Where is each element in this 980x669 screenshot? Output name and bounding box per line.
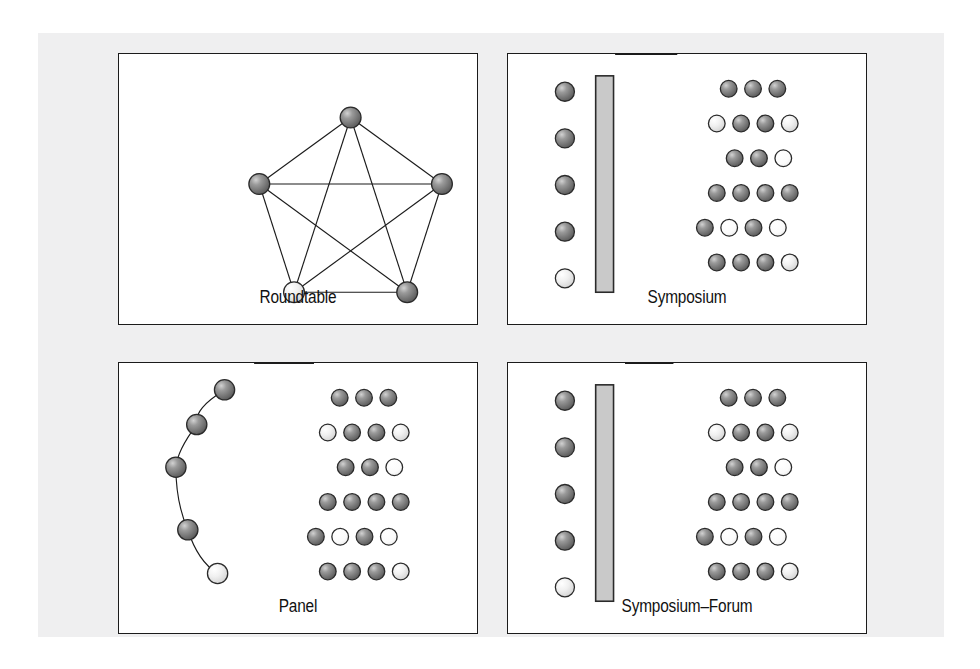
panel-audience-member xyxy=(380,389,397,406)
sphere-body xyxy=(757,254,774,271)
symposium-audience-member xyxy=(708,185,725,202)
symposium-audience-row xyxy=(726,150,791,167)
sphere-body xyxy=(726,459,743,476)
sphere-body xyxy=(726,150,743,167)
symposium-forum-audience-member xyxy=(733,424,750,441)
sphere-body xyxy=(769,389,786,406)
panel-symposium: Symposium xyxy=(507,53,867,325)
panel-audience-member xyxy=(319,563,336,580)
sphere-body xyxy=(187,414,207,434)
panel-audience-member xyxy=(368,494,385,511)
symposium-audience-member xyxy=(733,115,750,132)
symposium-forum-speaker xyxy=(555,531,574,550)
symposium-audience-row xyxy=(720,80,785,97)
symposium-audience-member xyxy=(697,219,714,236)
sphere-body xyxy=(555,391,574,410)
symposium-forum-audience-member xyxy=(721,528,738,545)
panel-audience-row xyxy=(337,459,402,476)
symposium-forum-audience-member xyxy=(781,424,798,441)
symposium-forum-audience xyxy=(697,389,799,579)
sphere-body xyxy=(708,115,725,132)
roundtable-edge xyxy=(351,118,408,293)
symposium-audience-member xyxy=(726,150,743,167)
panel-audience-member xyxy=(392,494,409,511)
roundtable-edge xyxy=(294,118,351,293)
symposium-audience-member xyxy=(745,80,762,97)
panel-audience-member xyxy=(368,424,385,441)
symposium-audience-row xyxy=(708,115,798,132)
symposium-forum-audience-row xyxy=(726,459,791,476)
sphere-body xyxy=(392,424,409,441)
symposium-audience-member xyxy=(720,80,737,97)
symposium-speakers xyxy=(555,82,574,288)
sphere-body xyxy=(555,222,574,241)
sphere-body xyxy=(781,494,798,511)
symposium-audience-member xyxy=(733,254,750,271)
symposium-forum-audience-row xyxy=(720,389,785,406)
sphere-body xyxy=(781,424,798,441)
sphere-body xyxy=(708,494,725,511)
panel-audience-member xyxy=(368,563,385,580)
sphere-body xyxy=(781,115,798,132)
symposium-audience-member xyxy=(781,115,798,132)
sphere-body xyxy=(733,424,750,441)
panel-audience-member xyxy=(319,494,336,511)
symposium-audience-member xyxy=(733,185,750,202)
panel-panel: Panel xyxy=(118,362,478,634)
sphere-body xyxy=(757,185,774,202)
symposium-audience xyxy=(697,80,799,270)
panel-caption-symposium-forum: Symposium–Forum xyxy=(529,596,844,617)
sphere-body xyxy=(319,424,336,441)
symposium-forum-audience-member xyxy=(720,389,737,406)
panel-panelist xyxy=(187,414,207,434)
symposium-forum-audience-member xyxy=(745,389,762,406)
symposium-forum-audience-row xyxy=(708,494,798,511)
sphere-body xyxy=(380,389,397,406)
panel-audience-row xyxy=(331,389,396,406)
sphere-body xyxy=(733,254,750,271)
sphere-body xyxy=(721,219,738,236)
sphere-body xyxy=(733,494,750,511)
symposium-forum-audience-member xyxy=(757,494,774,511)
symposium-audience-member xyxy=(781,185,798,202)
sphere-body xyxy=(319,494,336,511)
panel-panelist xyxy=(178,520,198,540)
sphere-body xyxy=(432,174,453,195)
roundtable-edge xyxy=(259,184,407,292)
sphere-body xyxy=(745,80,762,97)
symposium-audience-member xyxy=(781,254,798,271)
symposium-forum-audience-member xyxy=(757,563,774,580)
sphere-body xyxy=(332,528,349,545)
sphere-body xyxy=(178,520,198,540)
symposium-forum-audience-member xyxy=(769,528,786,545)
sphere-body xyxy=(555,82,574,101)
symposium-forum-speaker xyxy=(555,485,574,504)
sphere-body xyxy=(745,528,762,545)
roundtable-edges xyxy=(259,118,442,293)
panel-audience-member xyxy=(319,424,336,441)
symposium-forum-audience-member xyxy=(775,459,792,476)
sphere-body xyxy=(555,129,574,148)
sphere-body xyxy=(331,389,348,406)
sphere-body xyxy=(720,80,737,97)
roundtable-node xyxy=(432,174,453,195)
sphere-body xyxy=(308,528,325,545)
sphere-body xyxy=(733,185,750,202)
symposium-speaker xyxy=(555,269,574,288)
sphere-body xyxy=(745,219,762,236)
sphere-body xyxy=(368,563,385,580)
panel-panelist xyxy=(166,457,186,477)
sphere-body xyxy=(392,563,409,580)
panel-audience-member xyxy=(344,563,361,580)
sphere-body xyxy=(356,528,373,545)
sphere-body xyxy=(555,438,574,457)
panel-audience-member xyxy=(380,528,397,545)
roundtable-edge xyxy=(351,118,442,185)
roundtable-diagram xyxy=(119,54,477,324)
sphere-body xyxy=(751,459,768,476)
panel-audience-member xyxy=(332,528,349,545)
symposium-forum-audience-member xyxy=(769,389,786,406)
symposium-forum-audience-member xyxy=(708,563,725,580)
symposium-forum-audience-row xyxy=(697,528,787,545)
symposium-diagram xyxy=(508,54,866,324)
